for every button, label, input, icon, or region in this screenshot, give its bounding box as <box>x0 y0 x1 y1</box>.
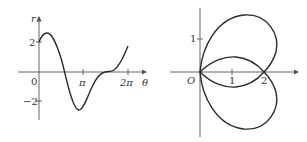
tick-label-pi: π <box>78 77 86 88</box>
r-axis-label: r <box>31 13 37 24</box>
tick-label-y-1: 1 <box>190 33 196 44</box>
tick-label-0: 0 <box>31 76 37 87</box>
r-theta-curve <box>39 33 128 110</box>
tick-label-r-2: 2 <box>29 37 35 48</box>
cartesian-graph: r θ 0 π 2π 2 −2 <box>18 13 148 120</box>
tick-label-2pi: 2π <box>119 77 133 88</box>
tick-label-x-2: 2 <box>261 75 267 86</box>
tick-label-x-1: 1 <box>229 75 235 86</box>
theta-axis-label: θ <box>142 77 148 88</box>
origin-label: O <box>187 75 195 86</box>
tick-label-r-neg2: −2 <box>23 96 38 107</box>
figure-canvas: r θ 0 π 2π 2 −2 O 1 2 1 <box>0 0 307 142</box>
polar-graph: O 1 2 1 <box>170 8 298 137</box>
